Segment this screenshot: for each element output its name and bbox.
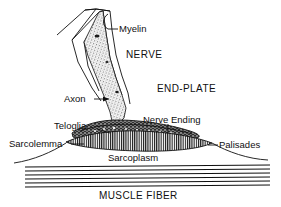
label-muscle-fiber: MUSCLE FIBER — [99, 190, 178, 201]
label-teloglia: Teloglia — [54, 120, 87, 131]
striation-line — [25, 173, 270, 175]
striation-line — [25, 165, 270, 167]
myelin-leader-line — [104, 14, 115, 29]
neuromuscular-junction-diagram: Myelin NERVE END-PLATE Axon Nerve Ending… — [0, 0, 281, 207]
figure-canvas: Myelin NERVE END-PLATE Axon Nerve Ending… — [0, 0, 281, 207]
striation-line — [25, 169, 270, 171]
striation-line — [25, 185, 270, 187]
axon-fleck — [115, 91, 118, 93]
label-palisades: Palisades — [219, 139, 260, 150]
label-myelin: Myelin — [119, 23, 146, 34]
label-sarcoplasm: Sarcoplasm — [108, 152, 158, 163]
muscle-fiber-striations — [25, 165, 270, 187]
label-nerve: NERVE — [126, 49, 162, 60]
label-nerve-ending: Nerve Ending — [143, 114, 201, 125]
label-axon: Axon — [64, 93, 86, 104]
striation-line — [25, 181, 270, 183]
axon-fleck — [105, 61, 108, 63]
nerve-trunk-top-opening — [85, 9, 110, 11]
label-sarcolemma: Sarcolemma — [9, 138, 63, 149]
striation-line — [25, 177, 270, 179]
label-end-plate: END-PLATE — [157, 83, 216, 94]
axon-fleck — [95, 35, 100, 38]
